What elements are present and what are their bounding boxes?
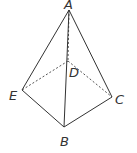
label-d: D	[69, 65, 79, 80]
solid-edges	[22, 10, 112, 127]
label-a: A	[63, 0, 73, 12]
edge-eb	[22, 90, 64, 127]
edge-bc	[64, 97, 112, 127]
edge-ac	[69, 10, 112, 97]
edge-de	[22, 61, 68, 90]
label-e: E	[9, 88, 18, 103]
vertex-labels: A D E C B	[9, 0, 125, 149]
edge-ae	[22, 10, 69, 90]
label-c: C	[115, 92, 125, 107]
pyramid-diagram: A D E C B	[0, 0, 137, 153]
label-b: B	[60, 134, 69, 149]
